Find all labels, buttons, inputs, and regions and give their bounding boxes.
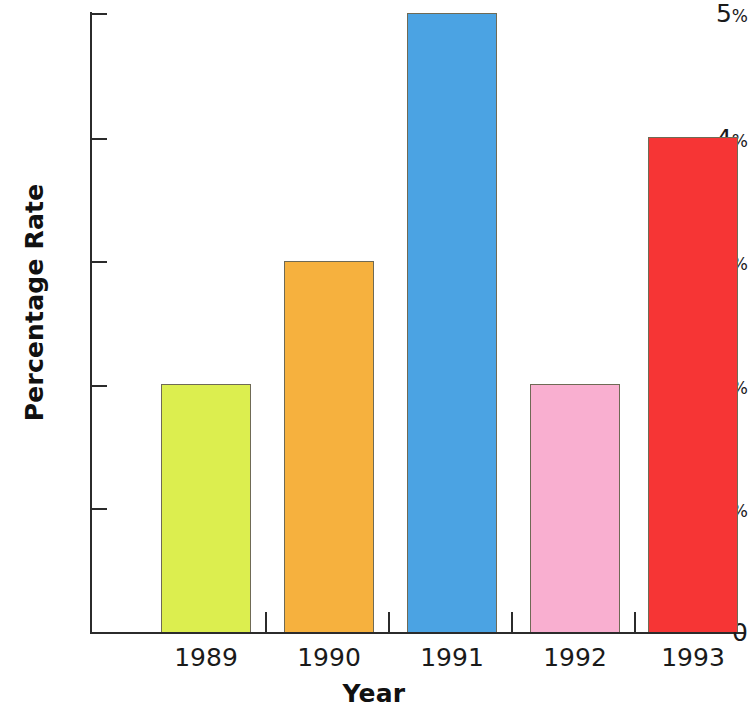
x-label-1993: 1993 xyxy=(628,645,748,670)
y-tick-mark-1 xyxy=(92,508,107,510)
x-tick-mark-2 xyxy=(388,612,390,632)
x-label-1989: 1989 xyxy=(141,645,271,670)
x-label-1992: 1992 xyxy=(510,645,640,670)
y-axis-title: Percentage Rate xyxy=(20,173,49,433)
bar-1993[interactable] xyxy=(648,137,738,632)
x-label-1991: 1991 xyxy=(387,645,517,670)
y-tick-mark-2 xyxy=(92,385,107,387)
x-axis-title: Year xyxy=(0,679,748,708)
y-tick-mark-3 xyxy=(92,261,107,263)
y-tick-mark-4 xyxy=(92,138,107,140)
bar-1990[interactable] xyxy=(284,261,374,632)
bar-1992[interactable] xyxy=(530,384,620,632)
x-tick-mark-1 xyxy=(265,612,267,632)
bar-chart: Percentage Rate 5% 4% 3% 2% 1% 0 1989 19… xyxy=(0,0,748,713)
y-axis-line xyxy=(90,12,92,634)
x-label-1990: 1990 xyxy=(264,645,394,670)
y-tick-label-5: 5% xyxy=(664,1,748,26)
x-tick-mark-4 xyxy=(634,612,636,632)
x-tick-mark-3 xyxy=(511,612,513,632)
bar-1991[interactable] xyxy=(407,13,497,632)
x-axis-line xyxy=(90,632,745,634)
bar-1989[interactable] xyxy=(161,384,251,632)
y-tick-mark-5 xyxy=(92,13,107,15)
